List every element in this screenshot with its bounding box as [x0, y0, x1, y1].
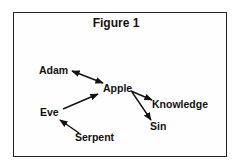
- node-sin: Sin: [150, 120, 166, 132]
- edge-adam-apple: [72, 71, 103, 83]
- node-serpent: Serpent: [75, 131, 114, 143]
- edge-eve-apple: [63, 94, 98, 109]
- node-knowledge: Knowledge: [152, 98, 208, 110]
- node-apple: Apple: [103, 82, 132, 94]
- node-eve: Eve: [40, 106, 59, 118]
- node-adam: Adam: [39, 64, 68, 76]
